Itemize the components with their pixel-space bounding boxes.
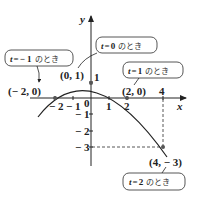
callout-t-1: t=1のとき [123,62,183,85]
point-4-neg3 [161,145,165,149]
y-tick-label-neg1: − 1 [75,108,90,120]
leader-line-t-0 [78,53,97,68]
parametric-graph: x y − 2 − 1 0 1 2 4 1 − 1 − 2 − 3 (− 2, … [0,0,203,203]
curve-points [53,81,165,149]
point-0-1 [89,81,93,85]
leader-line-t-neg1 [37,66,39,82]
x-tick-label-4: 4 [159,85,165,97]
x-axis-label: x [176,100,183,112]
x-tick-label-1: 1 [106,100,112,112]
y-tick-label-neg3: − 3 [75,141,90,153]
point-label-2-0: (2, 0) [122,85,146,98]
point-label-0-1: (0, 1) [60,69,84,82]
y-tick-label-neg2: − 2 [75,125,90,137]
point-label-neg2-0: (− 2, 0) [8,85,41,98]
y-axis-label: y [78,13,85,25]
x-tick-label-neg2: − 2 [49,100,64,112]
y-tick-label-1: 1 [94,71,100,83]
svg-text:t=1のとき: t=1のとき [128,66,169,76]
svg-text:t=2のとき: t=2のとき [129,177,170,187]
callout-t-2: t=2のとき [123,167,185,190]
leader-line-t-1 [134,78,139,85]
svg-text:t=0のとき: t=0のとき [101,41,142,51]
svg-text:t=− 1のとき: t=− 1のとき [10,54,59,64]
point-neg2-0 [53,96,57,100]
